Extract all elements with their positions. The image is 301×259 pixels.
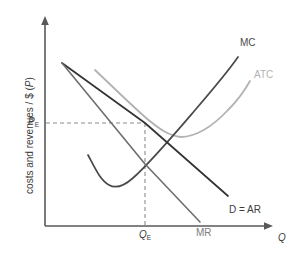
diagram-canvas bbox=[0, 0, 301, 259]
economics-diagram: costs and revenues / $ (P) Q PE QE MC AT… bbox=[0, 0, 301, 259]
quantity-equilibrium-subscript: E bbox=[147, 234, 151, 241]
x-axis-arrow-icon bbox=[264, 222, 273, 230]
y-axis-arrow-icon bbox=[41, 16, 49, 25]
quantity-equilibrium-label: QE bbox=[139, 230, 151, 240]
y-axis-label: costs and revenues / $ (P) bbox=[24, 51, 35, 221]
mr-curve-label: MR bbox=[196, 228, 212, 238]
quantity-equilibrium-symbol: Q bbox=[139, 229, 147, 240]
atc-curve-label: ATC bbox=[254, 70, 273, 80]
demand-curve-label: D = AR bbox=[229, 205, 261, 215]
price-equilibrium-label: PE bbox=[28, 117, 39, 127]
x-axis-label: Q bbox=[278, 233, 286, 243]
y-axis-label-variable: P bbox=[24, 80, 35, 87]
price-equilibrium-subscript: E bbox=[35, 121, 39, 128]
mc-curve-label: MC bbox=[240, 38, 256, 48]
y-axis-label-close: ) bbox=[24, 77, 35, 80]
price-equilibrium-symbol: P bbox=[28, 116, 35, 127]
mr-curve bbox=[62, 63, 200, 222]
y-axis-label-text: costs and revenues / $ ( bbox=[24, 87, 35, 194]
